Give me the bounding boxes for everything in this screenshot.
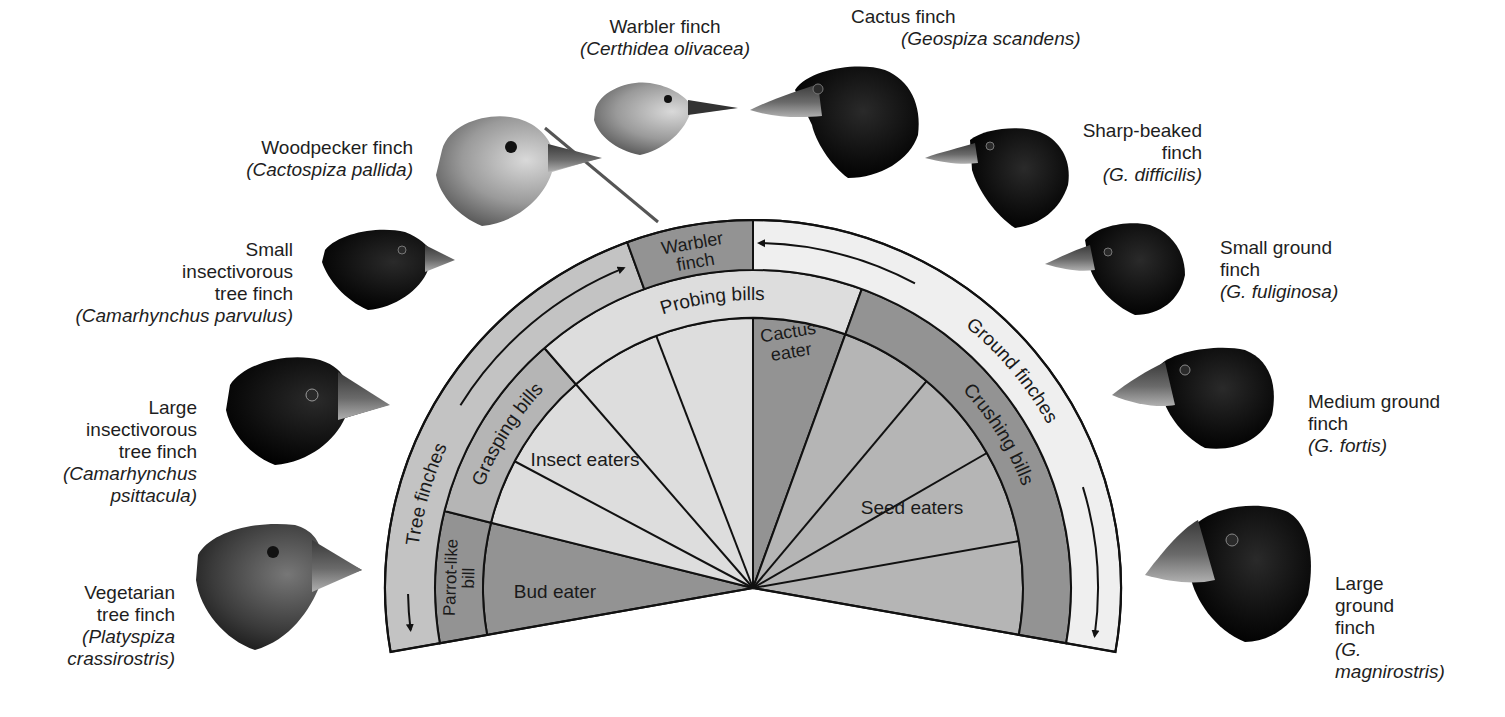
finch-label-large-insectivorous: Largeinsectivoroustree finch (Camarhynch…: [30, 397, 197, 507]
scientific-name: (Camarhynchus parvulus): [30, 305, 293, 327]
finch-label-warbler: Warbler finch (Certhidea olivacea): [560, 16, 770, 60]
scientific-name: (G. difficilis): [1080, 164, 1202, 186]
wedge-label-bud-eater: Bud eater: [514, 581, 597, 602]
common-name: Warbler finch: [560, 16, 770, 38]
bird-head-sharp-beaked-finch: [925, 128, 1069, 228]
common-name: Medium groundfinch: [1308, 391, 1440, 435]
scientific-name: (G.magnirostris): [1335, 639, 1445, 683]
bird-head-large-insectivorous-tree-finch: [226, 357, 390, 465]
finch-label-vegetarian: Vegetariantree finch (Platyspizacrassiro…: [30, 582, 175, 670]
bird-head-small-insectivorous-tree-finch: [322, 230, 455, 310]
bird-head-warbler-finch: [594, 82, 738, 155]
scientific-name: (G. fuliginosa): [1220, 281, 1338, 303]
svg-text:bill: bill: [459, 567, 479, 588]
common-name: Small groundfinch: [1220, 237, 1338, 281]
scientific-name: (Geospiza scandens): [851, 28, 1081, 50]
common-name: Woodpecker finch: [200, 137, 413, 159]
finch-label-large-ground: Largegroundfinch (G.magnirostris): [1335, 573, 1445, 683]
finch-label-small-insectivorous: Smallinsectivoroustree finch (Camarhynch…: [30, 239, 293, 327]
beak-diet-wheel: Tree finchesGround finchesWarblerfinchPr…: [0, 0, 1505, 717]
scientific-name: (G. fortis): [1308, 435, 1440, 457]
bird-head-vegetarian-tree-finch: [196, 524, 362, 650]
scientific-name: (Camarhynchuspsittacula): [30, 463, 197, 507]
common-name: Sharp-beakedfinch: [1080, 120, 1202, 164]
scientific-name: (Certhidea olivacea): [560, 38, 770, 60]
finch-label-sharp-beaked: Sharp-beakedfinch (G. difficilis): [1080, 120, 1202, 186]
bird-head-medium-ground-finch: [1112, 348, 1274, 449]
scientific-name: (Cactospiza pallida): [200, 159, 413, 181]
common-name: Largeinsectivoroustree finch: [30, 397, 197, 463]
common-name: Cactus finch: [851, 6, 1081, 28]
finch-adaptive-radiation-diagram: Tree finchesGround finchesWarblerfinchPr…: [0, 0, 1505, 717]
wedge-label-insect-eaters: Insect eaters: [531, 449, 640, 470]
wedge-label-seed-eaters: Seed eaters: [861, 497, 963, 518]
common-name: Largegroundfinch: [1335, 573, 1445, 639]
finch-label-woodpecker: Woodpecker finch (Cactospiza pallida): [200, 137, 413, 181]
bird-head-cactus-finch: [750, 67, 919, 178]
finch-label-small-ground: Small groundfinch (G. fuliginosa): [1220, 237, 1338, 303]
finch-label-medium-ground: Medium groundfinch (G. fortis): [1308, 391, 1440, 457]
finch-label-cactus: Cactus finch (Geospiza scandens): [851, 6, 1081, 50]
bird-head-large-ground-finch: [1145, 506, 1311, 642]
bird-head-small-ground-finch: [1045, 223, 1185, 315]
common-name: Smallinsectivoroustree finch: [30, 239, 293, 305]
common-name: Vegetariantree finch: [30, 582, 175, 626]
scientific-name: (Platyspizacrassirostris): [30, 626, 175, 670]
